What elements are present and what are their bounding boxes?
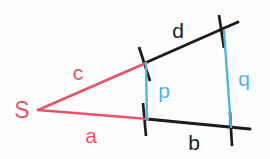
segment-label-b: b <box>188 132 200 153</box>
segment-q-line <box>224 31 231 127</box>
segment-p-line <box>146 63 147 120</box>
segment-b-line <box>147 119 250 129</box>
segment-a-line <box>38 110 148 119</box>
segment-label-q: q <box>238 68 250 89</box>
segment-label-p: p <box>158 80 170 101</box>
segment-label-a: a <box>85 125 97 146</box>
vertex-label-s: S <box>14 99 29 122</box>
figure-canvas <box>0 0 270 159</box>
geometry-figure: S c a d b p q <box>0 0 270 159</box>
segment-label-c: c <box>73 62 84 83</box>
segment-c-line <box>38 63 146 110</box>
segment-label-d: d <box>172 20 184 41</box>
